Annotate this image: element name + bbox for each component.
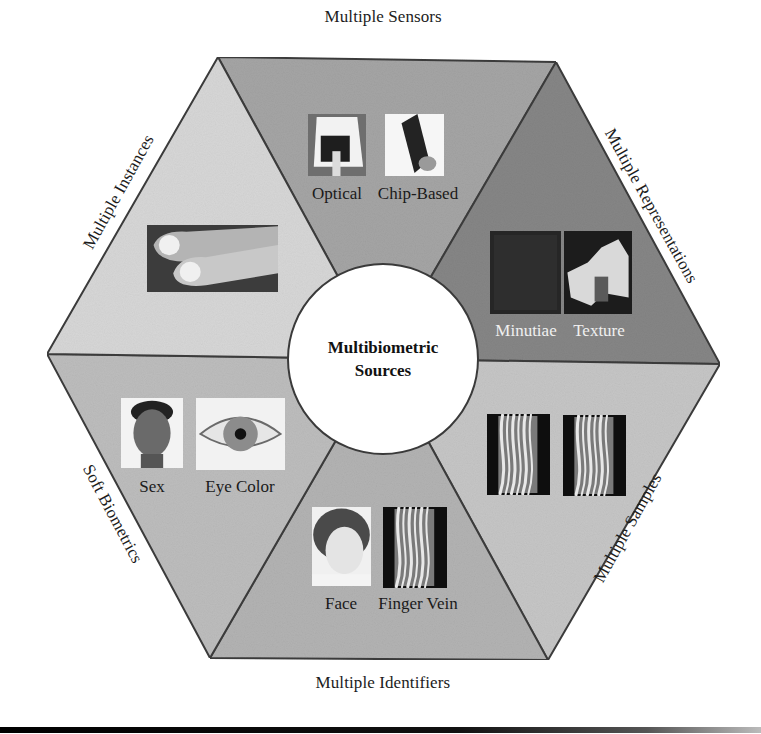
face-man-image (121, 398, 183, 468)
caption-minutiae: Minutiae (495, 321, 556, 341)
caption-face-woman: Face (325, 594, 357, 614)
edge-label-multiple-sensors: Multiple Sensors (325, 7, 442, 27)
caption-vein-c: Finger Vein (378, 594, 458, 614)
fingers-image (147, 225, 278, 292)
caption-face-man: Sex (139, 477, 165, 497)
center-title-line-2: Sources (355, 359, 411, 382)
multibiometric-diagram: Multiple SensorsMultiple Representations… (0, 0, 761, 734)
vein-c-image (383, 507, 447, 588)
caption-eye: Eye Color (205, 477, 274, 497)
texture-image (564, 231, 632, 314)
eye-image (196, 398, 285, 470)
caption-texture: Texture (573, 321, 625, 341)
vein-b-image (563, 415, 626, 496)
bottom-rule-divider (0, 727, 761, 733)
caption-optical-sensor: Optical (312, 184, 362, 204)
caption-chip-sensor: Chip-Based (378, 184, 458, 204)
chip-sensor-image (385, 114, 444, 176)
vein-a-image (487, 414, 550, 495)
center-title-line-1: Multibiometric (328, 336, 438, 359)
minutiae-image (490, 231, 561, 314)
optical-sensor-image (308, 114, 366, 176)
face-woman-image (312, 507, 371, 586)
center-circle: Multibiometric Sources (287, 263, 479, 455)
edge-label-multiple-identifiers: Multiple Identifiers (316, 673, 451, 693)
